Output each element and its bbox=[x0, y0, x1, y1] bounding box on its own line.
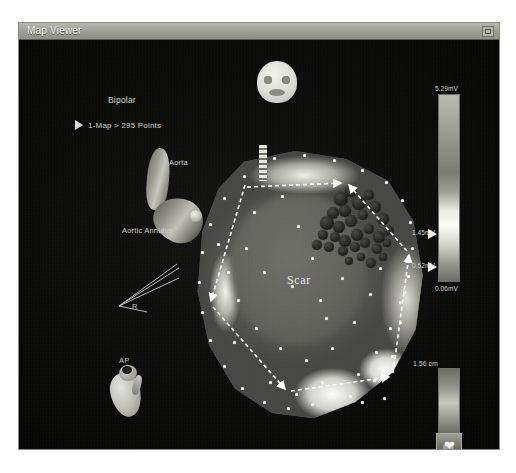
map-type-label: Bipolar bbox=[108, 95, 136, 105]
mapping-point[interactable] bbox=[389, 327, 392, 330]
mapping-point[interactable] bbox=[305, 359, 308, 362]
mapping-point[interactable] bbox=[403, 291, 406, 294]
mapping-point[interactable] bbox=[325, 317, 328, 320]
heart-model-icon[interactable] bbox=[107, 363, 149, 419]
mapping-point[interactable] bbox=[237, 299, 240, 302]
mapping-point[interactable] bbox=[369, 293, 372, 296]
mapping-point[interactable] bbox=[319, 299, 322, 302]
mapping-point[interactable] bbox=[341, 277, 344, 280]
mapping-point[interactable] bbox=[385, 181, 388, 184]
mapping-point[interactable] bbox=[233, 341, 236, 344]
voltage-upper-threshold-arrow-icon[interactable] bbox=[428, 229, 437, 239]
mapping-point[interactable] bbox=[209, 339, 212, 342]
head-shape bbox=[257, 61, 297, 103]
mapping-point[interactable] bbox=[379, 267, 382, 270]
ablation-lesion bbox=[360, 238, 370, 248]
ablation-lesion bbox=[320, 216, 334, 230]
orientation-axis-marker bbox=[117, 262, 183, 314]
ablation-lesion bbox=[364, 224, 374, 234]
mapping-point[interactable] bbox=[401, 199, 404, 202]
voltage-map[interactable]: Scar bbox=[193, 151, 425, 421]
ablation-lesion bbox=[364, 190, 374, 200]
ablation-lesion bbox=[377, 213, 389, 225]
mapping-point[interactable] bbox=[353, 321, 356, 324]
mapping-point[interactable] bbox=[303, 154, 306, 157]
heart-view-button[interactable]: ❤ bbox=[436, 433, 462, 449]
mapping-point[interactable] bbox=[223, 197, 226, 200]
mapping-point[interactable] bbox=[375, 351, 378, 354]
ablation-lesion bbox=[318, 230, 328, 240]
mapping-point[interactable] bbox=[209, 223, 212, 226]
mapping-point[interactable] bbox=[198, 281, 201, 284]
play-triangle-icon[interactable] bbox=[75, 120, 83, 130]
ablation-lesion bbox=[357, 253, 365, 261]
mapping-point[interactable] bbox=[273, 157, 276, 160]
mapping-point[interactable] bbox=[245, 247, 248, 250]
mapping-point[interactable] bbox=[279, 347, 282, 350]
mapping-point[interactable] bbox=[201, 311, 204, 314]
mapping-point[interactable] bbox=[391, 355, 394, 358]
mapping-point[interactable] bbox=[399, 301, 402, 304]
aortic-annulus-label: Aortic Annulus bbox=[122, 226, 173, 235]
mapping-point[interactable] bbox=[255, 327, 258, 330]
mapping-point[interactable] bbox=[411, 247, 414, 250]
map-viewer-window: Map Viewer Bipolar 1-Map > 295 Points bbox=[18, 22, 500, 450]
orientation-right-label: R bbox=[132, 302, 138, 311]
mapping-point[interactable] bbox=[399, 321, 402, 324]
map-canvas[interactable]: Bipolar 1-Map > 295 Points Aorta Aortic … bbox=[19, 40, 499, 449]
mapping-point[interactable] bbox=[287, 407, 290, 410]
ablation-lesion bbox=[345, 257, 353, 265]
mapping-point[interactable] bbox=[311, 403, 314, 406]
voltage-color-scale[interactable] bbox=[438, 94, 460, 282]
ablation-lesion bbox=[384, 226, 394, 236]
mapping-point[interactable] bbox=[349, 395, 352, 398]
ablation-lesion bbox=[379, 253, 387, 261]
voltage-scale-max-label: 5.29mV bbox=[435, 85, 458, 92]
mapping-point[interactable] bbox=[373, 379, 376, 382]
heart-icon: ❤ bbox=[444, 439, 455, 449]
mapping-point[interactable] bbox=[407, 275, 410, 278]
depth-scale-label: 1.56 cm bbox=[413, 360, 438, 367]
head-eye-right bbox=[282, 76, 290, 84]
mapping-point[interactable] bbox=[321, 381, 324, 384]
mapping-point[interactable] bbox=[201, 251, 204, 254]
voltage-lower-threshold-arrow-icon[interactable] bbox=[428, 262, 437, 272]
mapping-point[interactable] bbox=[409, 221, 412, 224]
ablation-lesion bbox=[369, 201, 381, 213]
mapping-point[interactable] bbox=[243, 175, 246, 178]
mapping-point[interactable] bbox=[357, 373, 360, 376]
mapping-point[interactable] bbox=[311, 257, 314, 260]
ablation-lesion bbox=[345, 185, 357, 197]
mapping-point[interactable] bbox=[241, 387, 244, 390]
map-points-label[interactable]: 1-Map > 295 Points bbox=[88, 121, 161, 130]
mapping-point[interactable] bbox=[227, 271, 230, 274]
voltage-scale-min-label: 0.06mV bbox=[435, 285, 458, 292]
mapping-point[interactable] bbox=[361, 401, 364, 404]
ablation-lesion bbox=[330, 232, 340, 242]
window-title-bar[interactable]: Map Viewer bbox=[19, 23, 499, 40]
mapping-point[interactable] bbox=[263, 271, 266, 274]
restore-window-button[interactable] bbox=[482, 26, 494, 37]
mapping-point[interactable] bbox=[281, 195, 284, 198]
ablation-lesion bbox=[345, 215, 357, 227]
aorta-label: Aorta bbox=[169, 158, 188, 167]
mapping-point[interactable] bbox=[333, 159, 336, 162]
mapping-point[interactable] bbox=[383, 397, 386, 400]
mapping-point[interactable] bbox=[223, 365, 226, 368]
ablation-lesion bbox=[352, 196, 366, 210]
ablation-lesion bbox=[312, 240, 322, 250]
heart-model-cavity bbox=[122, 366, 132, 374]
depth-scale-slider[interactable] bbox=[438, 368, 460, 438]
mapping-point[interactable] bbox=[263, 401, 266, 404]
mapping-point[interactable] bbox=[253, 211, 256, 214]
mapping-point[interactable] bbox=[335, 391, 338, 394]
mapping-point[interactable] bbox=[295, 393, 298, 396]
mapping-point[interactable] bbox=[269, 381, 272, 384]
mapping-point[interactable] bbox=[361, 169, 364, 172]
mapping-point[interactable] bbox=[217, 243, 220, 246]
mapping-point[interactable] bbox=[297, 225, 300, 228]
ablation-lesion bbox=[366, 258, 376, 268]
head-eye-left bbox=[264, 76, 272, 84]
mapping-point[interactable] bbox=[331, 347, 334, 350]
head-mouth bbox=[269, 89, 285, 96]
